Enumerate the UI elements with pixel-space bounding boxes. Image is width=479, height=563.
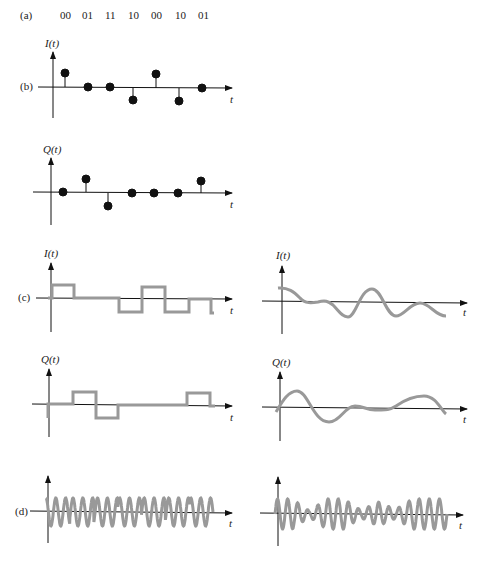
axis-label-t: t <box>230 93 234 105</box>
plot-c-Q-smooth: Q(t) t <box>262 356 467 441</box>
plot-c-I-rect: (c) I(t) t <box>18 247 234 332</box>
axis-label-t: t <box>459 519 463 531</box>
axis-label-t: t <box>230 304 234 316</box>
bit-pair: 10 <box>175 9 187 21</box>
bit-pair: 10 <box>128 9 140 21</box>
axis-label-t: t <box>230 411 234 423</box>
axis-label-t: t <box>463 413 467 425</box>
axis-label-t: t <box>230 198 234 210</box>
plot-b-I: (b) I(t) t <box>20 37 234 118</box>
axis-label-Q: Q(t) <box>43 143 62 156</box>
smooth-waveform <box>276 391 446 422</box>
rect-waveform <box>48 392 215 418</box>
axis-label-Q: Q(t) <box>272 356 291 369</box>
axis-label-I: I(t) <box>44 37 59 50</box>
bit-pair: 00 <box>60 9 72 21</box>
label-b: (b) <box>20 80 33 93</box>
plot-b-Q: Q(t) t <box>33 143 234 225</box>
plot-d-smooth: t <box>260 477 463 546</box>
label-a: (a) <box>20 9 33 22</box>
bit-pair: 01 <box>82 9 93 21</box>
carrier-waveform <box>275 499 447 529</box>
axis-label-Q: Q(t) <box>41 353 60 366</box>
plot-d-rect: (d) t <box>15 476 233 543</box>
bit-pair: 11 <box>105 9 116 21</box>
bit-pair: 00 <box>151 9 163 21</box>
label-c: (c) <box>18 291 31 304</box>
label-d: (d) <box>15 505 28 518</box>
axis-label-I: I(t) <box>43 247 58 260</box>
bit-pair: 01 <box>198 9 209 21</box>
plot-c-I-smooth: I(t) t <box>262 249 467 334</box>
plot-c-Q-rect: Q(t) t <box>32 353 234 437</box>
bit-pairs-row: 00 01 11 10 00 10 01 <box>60 9 209 21</box>
axis-label-t: t <box>463 306 467 318</box>
axis-label-I: I(t) <box>275 249 290 262</box>
axis-label-t: t <box>229 517 233 529</box>
t-axis <box>262 301 467 303</box>
rect-waveform <box>48 285 214 313</box>
